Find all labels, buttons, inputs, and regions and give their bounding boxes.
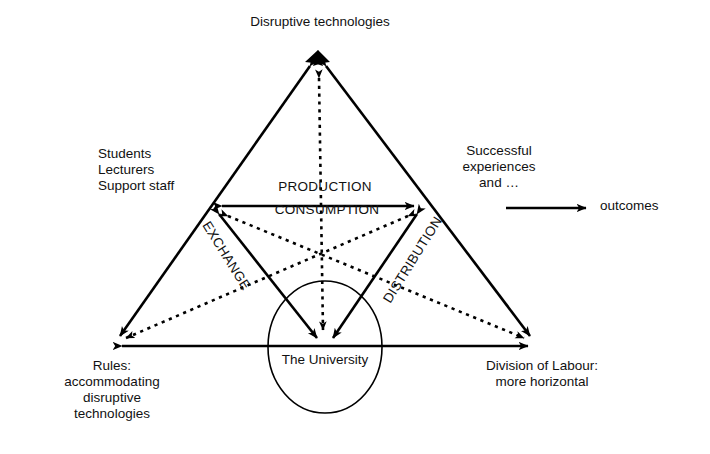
edge-apex-bottomleft <box>120 66 310 336</box>
node-label-rules: Rules: accommodating disruptive technolo… <box>22 358 202 422</box>
inner-triangle <box>219 206 417 338</box>
edge-label-production: PRODUCTION <box>240 179 410 195</box>
node-label-outcomes: outcomes <box>600 198 700 214</box>
node-label-object: Successful experiences and … <box>444 143 554 191</box>
vertex-arrow-cluster <box>305 50 330 66</box>
node-label-subject: Students Lecturers Support staff <box>98 146 218 194</box>
node-label-the-university: The University <box>258 352 392 368</box>
dotted-midright-bottomleft <box>126 216 408 338</box>
diagram-canvas: Disruptive technologies Students Lecture… <box>0 0 710 454</box>
node-label-division-of-labour: Division of Labour: more horizontal <box>452 358 632 390</box>
edge-apex-bottomright <box>326 66 530 336</box>
node-label-disruptive-technologies: Disruptive technologies <box>230 14 410 30</box>
edge-label-consumption: CONSUMPTION <box>237 202 417 218</box>
